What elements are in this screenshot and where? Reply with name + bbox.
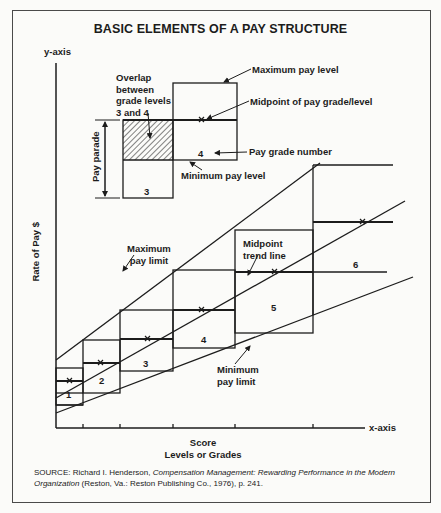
pay-range-label: Pay parade: [90, 117, 102, 197]
inset-grade-3: 3: [144, 186, 149, 198]
midpoint-markers: [67, 219, 365, 383]
y-axis-label: y-axis: [44, 46, 71, 58]
pay-grade-number-label: Pay grade number: [249, 146, 332, 158]
grade-1-label: 1: [66, 389, 71, 401]
minimum-pay-level-label: Minimum pay level: [181, 170, 265, 182]
grade-2-label: 2: [99, 375, 104, 387]
x-axis-title-levels: Levels or Grades: [148, 449, 258, 461]
grade-5-label: 5: [271, 302, 276, 314]
y-axis-title: Rate of Pay $: [30, 212, 42, 292]
grade-3-label: 3: [143, 358, 148, 370]
maximum-pay-limit-label: Maximum pay limit: [127, 243, 171, 266]
overlap-label: Overlap between grade levels 3 and 4: [116, 72, 171, 118]
grade-6-label: 6: [353, 259, 358, 271]
source-citation: SOURCE: Richard I. Henderson, Compensati…: [34, 467, 414, 489]
x-axis-title-score: Score: [168, 437, 238, 449]
inset-grade-4: 4: [198, 148, 203, 160]
maximum-pay-level-label: Maximum pay level: [252, 64, 339, 76]
grade-4-label: 4: [201, 334, 206, 346]
midpoint-trend-line-label: Midpoint trend line: [243, 238, 286, 261]
minimum-pay-limit-label: Minimum pay limit: [217, 364, 259, 387]
x-axis-label: x-axis: [369, 422, 396, 434]
midpoint-of-pay-grade-label: Midpoint of pay grade/level: [250, 96, 372, 108]
